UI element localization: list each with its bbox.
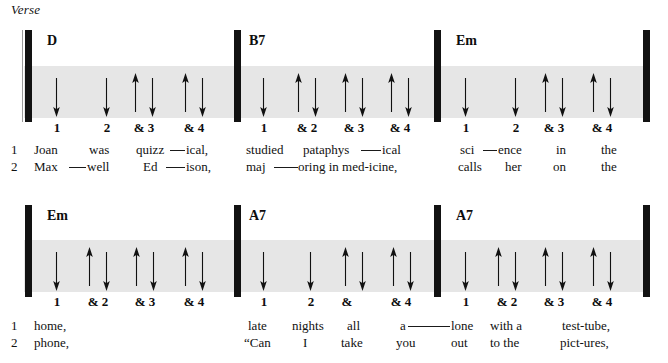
strum-up-arrow — [293, 72, 304, 112]
barline-2-1 — [234, 205, 241, 297]
lyric-syllable: nights — [292, 318, 324, 334]
lyric-syllable: phone, — [34, 335, 69, 351]
lyric-syllable: I — [303, 335, 307, 351]
beat-label: & 4 — [391, 294, 412, 310]
strum-down-arrow — [510, 252, 521, 292]
beat-label: 2 — [104, 120, 111, 136]
beat-label: & 4 — [184, 120, 205, 136]
lyric-syllable: ical — [382, 142, 401, 158]
strum-down-arrow — [557, 78, 568, 118]
section-label-verse: Verse — [11, 2, 40, 18]
strum-up-arrow — [84, 246, 95, 286]
beat-label: & 2 — [297, 120, 318, 136]
strum-down-arrow — [101, 78, 112, 118]
lyric-syllable: lone — [451, 318, 473, 334]
strum-down-arrow — [197, 78, 208, 118]
beat-label: 1 — [54, 120, 61, 136]
lyric-syllable: Ed — [143, 159, 157, 175]
beat-label: & 4 — [184, 294, 205, 310]
beat-label: & 3 — [134, 120, 155, 136]
beat-label: & 3 — [544, 120, 565, 136]
strum-down-arrow — [51, 78, 62, 118]
lyric-syllable: quizz — [136, 142, 164, 158]
melisma-line — [69, 167, 86, 168]
beat-label: 2 — [513, 120, 520, 136]
strum-down-arrow — [197, 252, 208, 292]
barline-2-2 — [434, 205, 441, 297]
strum-down-arrow — [605, 78, 616, 118]
strum-up-arrow — [131, 246, 142, 286]
barline-1-1 — [234, 30, 241, 122]
strum-up-arrow — [493, 246, 504, 286]
strum-down-arrow — [148, 252, 159, 292]
lyric-syllable: ison, — [186, 159, 211, 175]
strum-down-arrow — [460, 252, 471, 292]
lyric-syllable: was — [89, 142, 109, 158]
barline-echo-1-0 — [22, 30, 23, 122]
melisma-line — [170, 150, 185, 151]
melisma-line — [166, 167, 185, 168]
strum-up-arrow — [588, 72, 599, 112]
lyric-syllable: ical, — [186, 142, 208, 158]
beat-label: 1 — [261, 294, 268, 310]
lyric-syllable: to the — [490, 335, 519, 351]
beat-label: 1 — [261, 120, 268, 136]
verse-number: 2 — [11, 159, 18, 175]
verse-number: 1 — [11, 318, 18, 334]
strum-up-arrow — [388, 246, 399, 286]
strum-down-arrow — [310, 78, 321, 118]
chord-symbol-2-2: A7 — [249, 208, 266, 224]
melisma-line — [274, 167, 298, 168]
lyric-syllable: ence — [498, 142, 522, 158]
lyric-syllable: calls — [458, 159, 482, 175]
verse-number: 1 — [11, 142, 18, 158]
lyric-syllable: sci — [460, 142, 474, 158]
beat-label: 1 — [54, 294, 61, 310]
beat-label: & 3 — [544, 294, 565, 310]
strum-down-arrow — [51, 252, 62, 292]
lyric-syllable: studied — [246, 142, 284, 158]
strum-up-arrow — [340, 246, 351, 286]
strum-up-arrow — [180, 72, 191, 112]
lyric-syllable: pataphys — [303, 142, 349, 158]
beat-label: & 4 — [390, 120, 411, 136]
lyric-syllable: the — [601, 159, 617, 175]
verse-number: 2 — [11, 335, 18, 351]
strum-down-arrow — [147, 78, 158, 118]
strum-up-arrow — [386, 72, 397, 112]
strum-up-arrow — [588, 246, 599, 286]
rhythm-band-2 — [24, 240, 648, 292]
strum-up-arrow — [130, 72, 141, 112]
chord-symbol-1-1: D — [47, 33, 57, 49]
beat-label: & 3 — [135, 294, 156, 310]
lyric-syllable: pict-ures, — [560, 335, 609, 351]
beat-label: 2 — [308, 294, 315, 310]
strum-down-arrow — [357, 78, 368, 118]
lyric-syllable: home, — [34, 318, 66, 334]
lyric-syllable: Max — [34, 159, 58, 175]
beat-label: 1 — [463, 294, 470, 310]
beat-label: & 2 — [497, 294, 518, 310]
chord-symbol-2-1: Em — [47, 208, 68, 224]
strum-down-arrow — [510, 78, 521, 118]
beat-label: 1 — [463, 120, 470, 136]
strum-down-arrow — [460, 78, 471, 118]
strum-down-arrow — [101, 252, 112, 292]
rhythm-band-1 — [24, 66, 648, 118]
strum-down-arrow — [357, 252, 368, 292]
lyric-syllable: the — [601, 142, 617, 158]
lyric-syllable: late — [248, 318, 267, 334]
lyric-syllable: oring in med-icine, — [298, 159, 397, 175]
strum-down-arrow — [305, 252, 316, 292]
lyric-syllable: Joan — [34, 142, 58, 158]
strum-down-arrow — [403, 78, 414, 118]
strum-down-arrow — [405, 252, 416, 292]
lyric-syllable: take — [341, 335, 363, 351]
lyric-syllable: out — [451, 335, 468, 351]
melisma-line — [361, 150, 381, 151]
chord-symbol-1-2: B7 — [249, 33, 265, 49]
melisma-line — [408, 326, 450, 327]
strum-down-arrow — [605, 252, 616, 292]
lyric-syllable: “Can — [244, 335, 271, 351]
beat-label: & 2 — [88, 294, 109, 310]
